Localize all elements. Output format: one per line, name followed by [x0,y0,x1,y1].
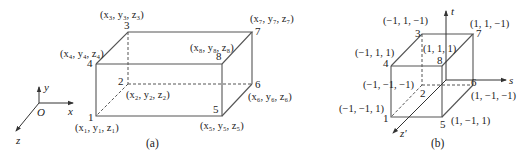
node-b-3-coord: (−1, 1, −1) [383,15,429,27]
node-b-4-number: 4 [383,57,389,69]
node-b-6-coord: (1, −1, −1) [471,90,517,102]
figure-b-natural-cube: t s z′ 1 2 3 4 5 6 7 8 (−1, −1, 1) (−1, … [339,5,517,150]
node-5-coord: (x₅, y₅, z₅) [200,120,244,132]
node-2-coord: (x₂, y₂, z₂) [126,89,170,101]
y-axis-label: y [43,81,49,93]
node-b-6-number: 6 [471,76,477,88]
node-6-coord: (x₆, y₆, z₆) [248,91,292,103]
node-b-7-coord: (1, 1, −1) [470,18,510,30]
origin-label: O [37,106,45,118]
t-axis-label: t [451,5,455,17]
node-4-coord: (x₄, y₄, z₄) [60,48,104,60]
node-b-3-number: 3 [415,27,421,39]
node-7-number: 7 [255,25,261,37]
node-b-2-coord: (−1, −1, −1) [363,79,415,91]
z-axis-arrow-icon [16,103,39,131]
node-8-coord: (x₈, y₈, z₈) [190,42,234,54]
node-6-number: 6 [255,78,261,90]
node-b-2-number: 2 [420,87,426,99]
figure-a-global-cube: y x z O 1 2 3 4 5 6 7 8 (x₁, y₁, z₁) (x₂… [15,9,294,150]
node-b-4-coord: (−1, 1, 1) [355,47,395,59]
node-2-number: 2 [118,75,124,87]
node-7-coord: (x₇, y₇, z₇) [250,13,294,25]
caption-b: (b) [431,137,445,150]
node-3-number: 3 [124,19,130,31]
node-b-1-coord: (−1, −1, 1) [339,103,385,115]
node-b-5-coord: (1, −1, 1) [451,115,491,127]
node-b-8-coord: (1, 1, 1) [423,43,457,55]
global-axes: y x z O [15,81,73,146]
node-1-coord: (x₁, y₁, z₁) [75,122,119,134]
caption-a: (a) [146,137,159,150]
node-3-coord: (x₃, y₃, z₃) [100,9,144,21]
x-axis-label: x [67,105,73,117]
node-b-8-number: 8 [437,54,443,66]
node-5-number: 5 [213,103,219,115]
s-axis-label: s [509,74,513,86]
hexahedron-element-figure: y x z O 1 2 3 4 5 6 7 8 (x₁, y₁, z₁) (x₂… [0,0,531,158]
z-prime-axis-label: z′ [399,127,407,139]
z-axis-label: z [15,134,21,146]
node-b-5-number: 5 [440,118,446,130]
